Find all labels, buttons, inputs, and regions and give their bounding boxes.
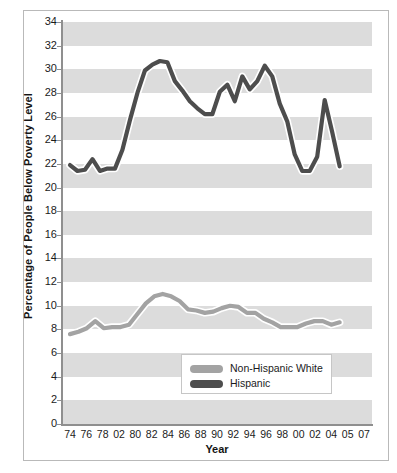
legend-label-non-hispanic-white: Non-Hispanic White — [230, 363, 323, 374]
legend-label-hispanic: Hispanic — [230, 378, 270, 389]
legend-swatch-non-hispanic-white — [190, 365, 223, 373]
y-axis-title: Percentage of People Below Poverty Level — [22, 86, 34, 326]
legend-swatch-hispanic — [190, 380, 223, 388]
legend-item-hispanic: Hispanic — [190, 376, 323, 391]
chart-figure: 3432302826242220181614121086420 74767802… — [0, 0, 397, 473]
chart-legend: Non-Hispanic White Hispanic — [181, 354, 332, 394]
x-tick-label: 07 — [353, 428, 375, 440]
x-axis-ticks: 74767802808284868890929496980002040507 — [0, 0, 397, 473]
legend-item-non-hispanic-white: Non-Hispanic White — [190, 361, 323, 376]
x-axis-title: Year — [62, 443, 372, 455]
